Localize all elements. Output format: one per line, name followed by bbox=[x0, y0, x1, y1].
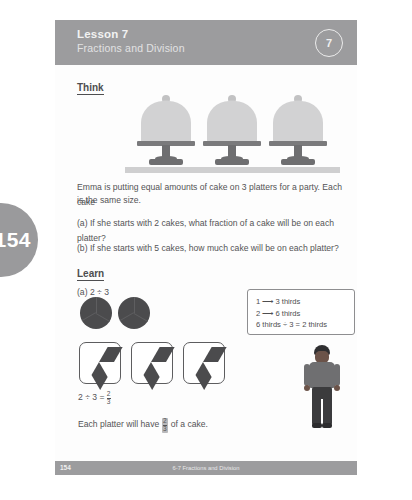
learn-heading: Learn bbox=[77, 268, 104, 281]
fraction-numerator: 2 bbox=[163, 418, 167, 425]
conclusion-sentence: Each platter will have 2 3 of a cake. bbox=[78, 417, 208, 433]
callout-line-3: 6 thirds ÷ 3 = 2 thirds bbox=[256, 319, 346, 331]
sentence-after: of a cake. bbox=[171, 419, 208, 429]
third-piece bbox=[196, 362, 212, 390]
sentence-before: Each platter will have bbox=[78, 419, 159, 429]
platter-pieces bbox=[186, 345, 220, 379]
platter bbox=[183, 342, 225, 384]
platter-pieces bbox=[82, 345, 116, 379]
cake-stands-illustration bbox=[137, 93, 327, 168]
cake-division-line bbox=[120, 312, 134, 321]
cake-foot bbox=[149, 159, 183, 165]
problem-part-b: (b) If she starts with 5 cakes, how much… bbox=[77, 241, 339, 256]
third-piece bbox=[144, 362, 160, 390]
problem-intro-line2: is the same size. bbox=[77, 193, 141, 208]
fraction-denominator: 3 bbox=[163, 425, 167, 433]
character-shoe-right bbox=[322, 423, 332, 428]
equation-fraction: 2 3 bbox=[107, 391, 111, 406]
cake-division-line bbox=[82, 312, 96, 321]
lesson-subtitle: Fractions and Division bbox=[77, 42, 185, 54]
page-number-tab: 154 bbox=[0, 203, 38, 277]
third-piece bbox=[92, 362, 108, 390]
division-equation: 2 ÷ 3 = 2 3 bbox=[78, 390, 111, 406]
cake-foot bbox=[215, 159, 249, 165]
third-piece bbox=[151, 347, 175, 362]
cake-division-line bbox=[96, 297, 97, 313]
character-shoe-left bbox=[312, 423, 322, 428]
lesson-number-badge: 7 bbox=[315, 29, 343, 57]
cake-stand bbox=[137, 93, 195, 168]
cake-stand bbox=[269, 93, 327, 168]
whole-cake-circle bbox=[80, 297, 112, 329]
table-surface-line bbox=[125, 167, 340, 173]
character-arm-left bbox=[304, 364, 310, 386]
page-footer: 154 6-7 Fractions and Division bbox=[55, 461, 357, 475]
character-hand-right bbox=[334, 385, 340, 391]
third-piece bbox=[99, 347, 123, 362]
cake-division-line bbox=[96, 313, 110, 322]
platter bbox=[131, 342, 173, 384]
cake-stand bbox=[203, 93, 261, 168]
third-piece bbox=[203, 347, 227, 362]
platter bbox=[79, 342, 121, 384]
equation-lhs: 2 ÷ 3 = bbox=[78, 392, 104, 402]
platter-pieces bbox=[134, 345, 168, 379]
page-number: 154 bbox=[0, 228, 31, 252]
lesson-title: Lesson 7 bbox=[77, 28, 128, 40]
character-shirt bbox=[309, 362, 335, 388]
fraction-denominator: 3 bbox=[107, 398, 111, 406]
cake-division-line bbox=[134, 297, 135, 313]
character-arm-right bbox=[334, 364, 340, 386]
fraction-numerator: 2 bbox=[107, 391, 111, 398]
callout-box: 1 ⟶ 3 thirds 2 ⟶ 6 thirds 6 thirds ÷ 3 =… bbox=[247, 289, 355, 335]
callout-line-2: 2 ⟶ 6 thirds bbox=[256, 308, 346, 320]
answer-fraction-highlight: 2 3 bbox=[162, 418, 169, 433]
cake-foot bbox=[281, 159, 315, 165]
textbook-page: 154 Lesson 7 Fractions and Division 7 Th… bbox=[0, 0, 412, 500]
character-hand-left bbox=[304, 385, 310, 391]
character-leg-gap bbox=[321, 399, 323, 425]
lesson-header: Lesson 7 Fractions and Division 7 bbox=[55, 20, 357, 65]
callout-line-1: 1 ⟶ 3 thirds bbox=[256, 296, 346, 308]
whole-cake-circle bbox=[118, 297, 150, 329]
footer-lesson-label: 6-7 Fractions and Division bbox=[55, 465, 357, 471]
cake-division-line bbox=[134, 313, 148, 322]
cake-dome bbox=[141, 101, 191, 143]
cake-dome bbox=[273, 101, 323, 143]
think-heading: Think bbox=[77, 82, 104, 95]
cake-dome bbox=[207, 101, 257, 143]
student-character-illustration bbox=[300, 345, 344, 433]
